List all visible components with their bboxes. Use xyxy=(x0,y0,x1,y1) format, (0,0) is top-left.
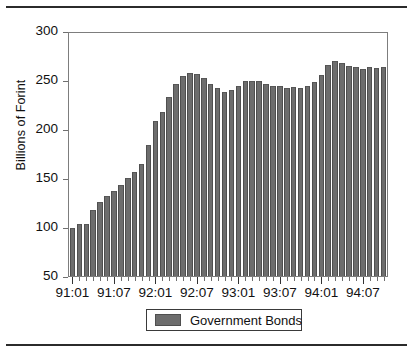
bar xyxy=(374,68,380,276)
x-axis-tick-mark xyxy=(273,277,274,281)
x-axis-tick-mark xyxy=(301,277,302,281)
bar xyxy=(118,185,124,276)
x-axis-tick-mark xyxy=(238,277,239,284)
x-axis-tick-mark xyxy=(128,277,129,281)
bar xyxy=(312,82,318,276)
legend-label-government-bonds: Government Bonds xyxy=(190,313,302,328)
x-axis-tick-mark xyxy=(100,277,101,281)
x-axis-tick-mark xyxy=(197,277,198,284)
bar xyxy=(160,112,166,276)
x-axis-tick-mark xyxy=(190,277,191,281)
bar xyxy=(277,86,283,276)
x-axis-tick-mark xyxy=(72,277,73,284)
x-axis-tick-mark xyxy=(370,277,371,281)
legend-swatch-government-bonds xyxy=(155,314,181,326)
bar xyxy=(243,81,249,276)
x-axis-tick-labels: 91:0191:0792:0192:0793:0193:0794:0194:07 xyxy=(0,285,413,303)
bar xyxy=(291,87,297,276)
bar xyxy=(194,74,200,276)
bar xyxy=(332,61,338,276)
y-axis-tick-mark xyxy=(63,277,68,278)
x-axis-tick-mark xyxy=(252,277,253,281)
x-axis-tick-mark xyxy=(377,277,378,281)
bar xyxy=(173,84,179,276)
bar xyxy=(298,88,304,276)
bar xyxy=(236,86,242,276)
bar xyxy=(146,145,152,276)
x-axis-tick-mark xyxy=(363,277,364,284)
x-axis-tick-label: 94:07 xyxy=(333,285,393,300)
x-axis-tick-mark xyxy=(321,277,322,284)
bar xyxy=(180,76,186,276)
y-axis-tick-label: 250 xyxy=(35,72,58,87)
y-axis-tick-label: 100 xyxy=(35,219,58,234)
x-axis-tick-mark xyxy=(280,277,281,284)
chart-legend: Government Bonds xyxy=(146,309,302,331)
x-axis-tick-mark xyxy=(86,277,87,281)
x-axis-tick-mark xyxy=(218,277,219,281)
bar xyxy=(215,88,221,276)
y-axis-tick-label: 50 xyxy=(43,268,58,283)
bar xyxy=(256,81,262,276)
x-axis-tick-mark xyxy=(211,277,212,281)
bar xyxy=(166,97,172,276)
bar xyxy=(367,67,373,276)
bar xyxy=(346,66,352,276)
x-axis-tick-mark xyxy=(107,277,108,281)
x-axis-tick-mark xyxy=(121,277,122,281)
bottom-divider-rule xyxy=(6,344,407,346)
x-axis-tick-mark xyxy=(204,277,205,281)
bar xyxy=(353,67,359,276)
x-axis-tick-mark xyxy=(142,277,143,281)
bar xyxy=(70,228,76,276)
y-axis-tick-label: 200 xyxy=(35,121,58,136)
bar xyxy=(84,224,90,276)
x-axis-tick-mark xyxy=(294,277,295,281)
bar xyxy=(305,86,311,276)
x-axis-ticks xyxy=(69,277,387,285)
bar-series-government-bonds xyxy=(69,33,387,276)
x-axis-tick-mark xyxy=(183,277,184,281)
x-axis-tick-mark xyxy=(245,277,246,281)
bar xyxy=(208,84,214,276)
bar xyxy=(360,69,366,276)
chart-figure: Billions of Forint 50100150200250300 91:… xyxy=(0,0,413,355)
bar xyxy=(229,90,235,276)
x-axis-tick-mark xyxy=(328,277,329,281)
bar xyxy=(284,88,290,276)
x-axis-tick-mark xyxy=(356,277,357,281)
bar xyxy=(77,224,83,276)
x-axis-tick-mark xyxy=(342,277,343,281)
x-axis-tick-mark xyxy=(225,277,226,281)
bar xyxy=(104,196,110,276)
bar xyxy=(153,121,159,276)
y-axis-title: Billions of Forint xyxy=(14,50,28,200)
x-axis-tick-mark xyxy=(149,277,150,281)
x-axis-tick-mark xyxy=(93,277,94,281)
x-axis-tick-mark xyxy=(176,277,177,281)
bar xyxy=(111,191,117,276)
bar xyxy=(325,65,331,276)
x-axis-tick-mark xyxy=(79,277,80,281)
x-axis-tick-mark xyxy=(155,277,156,284)
x-axis-tick-mark xyxy=(169,277,170,281)
bar xyxy=(125,178,131,276)
top-divider-rule xyxy=(6,6,407,8)
x-axis-tick-mark xyxy=(266,277,267,281)
x-axis-tick-mark xyxy=(314,277,315,281)
y-axis-tick-label: 150 xyxy=(35,170,58,185)
x-axis-tick-mark xyxy=(287,277,288,281)
x-axis-tick-mark xyxy=(231,277,232,281)
bar xyxy=(381,67,387,276)
bar xyxy=(222,92,228,276)
x-axis-tick-mark xyxy=(335,277,336,281)
x-axis-tick-mark xyxy=(135,277,136,281)
bar xyxy=(339,63,345,276)
bar xyxy=(97,202,103,276)
bar xyxy=(319,75,325,276)
x-axis-tick-mark xyxy=(162,277,163,281)
y-axis-tick-label: 300 xyxy=(35,23,58,38)
bar xyxy=(187,73,193,276)
bar xyxy=(249,81,255,276)
bar xyxy=(263,84,269,276)
